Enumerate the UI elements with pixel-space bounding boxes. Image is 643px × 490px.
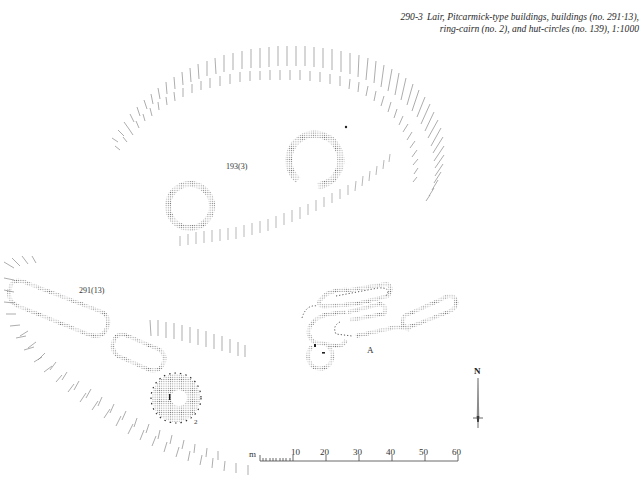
scale-tick-50: 50 [419, 447, 428, 457]
north-arrow-icon [473, 378, 483, 428]
marker-dot [345, 126, 347, 128]
label-site-a: A [367, 345, 374, 355]
label-buildings: 291(13) [79, 286, 104, 295]
upper-terrace-hachures [112, 46, 444, 201]
scale-tick-20: 20 [320, 447, 329, 457]
hut-circle-west [168, 184, 212, 228]
site-plan [0, 0, 643, 490]
label-hut-circles: 193(3) [226, 162, 247, 171]
pitcarmick-buildings [302, 284, 456, 369]
label-ring-cairn: 2 [194, 418, 198, 426]
scale-unit: m [249, 449, 256, 459]
north-label: N [474, 366, 481, 376]
ring-cairn [151, 373, 201, 423]
building-short [113, 335, 165, 371]
scale-tick-10: 10 [291, 447, 300, 457]
scale-tick-60: 60 [452, 447, 461, 457]
hut-circle-east [289, 134, 341, 186]
scale-tick-30: 30 [353, 447, 362, 457]
scale-tick-40: 40 [386, 447, 395, 457]
